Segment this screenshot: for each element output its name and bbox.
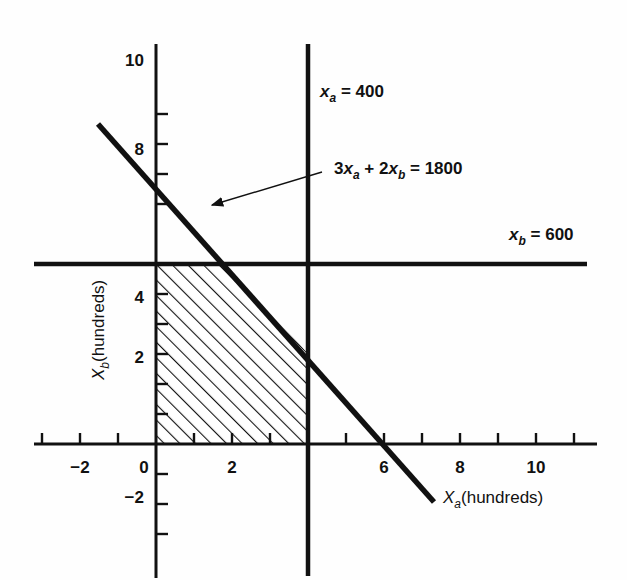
x-tick-label-6: 6 — [379, 458, 388, 477]
y-axis-title-var: X — [89, 368, 108, 381]
chart-figure: −2 0 2 6 8 10 10 8 4 2 −2 Xa(hundreds) X… — [0, 0, 627, 580]
y-axis-ticks — [156, 114, 168, 534]
x-axis-title-var: X — [442, 488, 455, 507]
x-tick-label-0: 0 — [139, 458, 148, 477]
svg-text:Xb(hundreds): Xb(hundreds) — [89, 280, 112, 381]
y-tick-labels: 10 8 4 2 −2 — [125, 51, 145, 507]
y-tick-label--2: −2 — [125, 488, 144, 507]
label-xa-eq: = 400 — [336, 82, 384, 101]
label-constraint-xa-400: xa = 400 — [319, 82, 384, 105]
y-tick-label-2: 2 — [135, 348, 144, 367]
svg-text:xb = 600: xb = 600 — [508, 225, 574, 248]
label-constraint-xb-600: xb = 600 — [508, 225, 574, 248]
linear-programming-plot: −2 0 2 6 8 10 10 8 4 2 −2 Xa(hundreds) X… — [0, 0, 627, 580]
annotation-leader-line — [212, 172, 322, 205]
label-xb-eq: = 600 — [526, 225, 574, 244]
feasible-region — [156, 264, 308, 444]
x-tick-label-8: 8 — [455, 458, 464, 477]
x-axis — [34, 433, 597, 444]
x-axis-title: Xa(hundreds) — [442, 488, 543, 511]
y-tick-label-10: 10 — [125, 51, 144, 70]
y-axis-title: Xb(hundreds) — [89, 280, 112, 381]
label-diag-coef-b: 2 — [379, 159, 388, 178]
x-tick-label-10: 10 — [527, 458, 546, 477]
label-constraint-diagonal: 3xa + 2xb = 1800 — [334, 159, 462, 182]
y-axis-title-unit: (hundreds) — [89, 280, 108, 362]
label-diag-plus: + — [360, 159, 379, 178]
label-diag-sub-b: b — [398, 168, 405, 182]
x-tick-label--2: −2 — [70, 458, 89, 477]
label-xb-sub: b — [518, 234, 525, 248]
label-diag-eq: = 1800 — [405, 159, 462, 178]
svg-text:3xa + 2xb = 1800: 3xa + 2xb = 1800 — [334, 159, 462, 182]
label-diag-coef-a: 3 — [334, 159, 343, 178]
y-tick-label-4: 4 — [135, 288, 145, 307]
x-axis-title-unit: (hundreds) — [461, 488, 543, 507]
y-tick-label-8: 8 — [135, 140, 144, 159]
svg-text:xa = 400: xa = 400 — [319, 82, 384, 105]
svg-text:Xa(hundreds): Xa(hundreds) — [442, 488, 543, 511]
x-tick-label-2: 2 — [227, 458, 236, 477]
